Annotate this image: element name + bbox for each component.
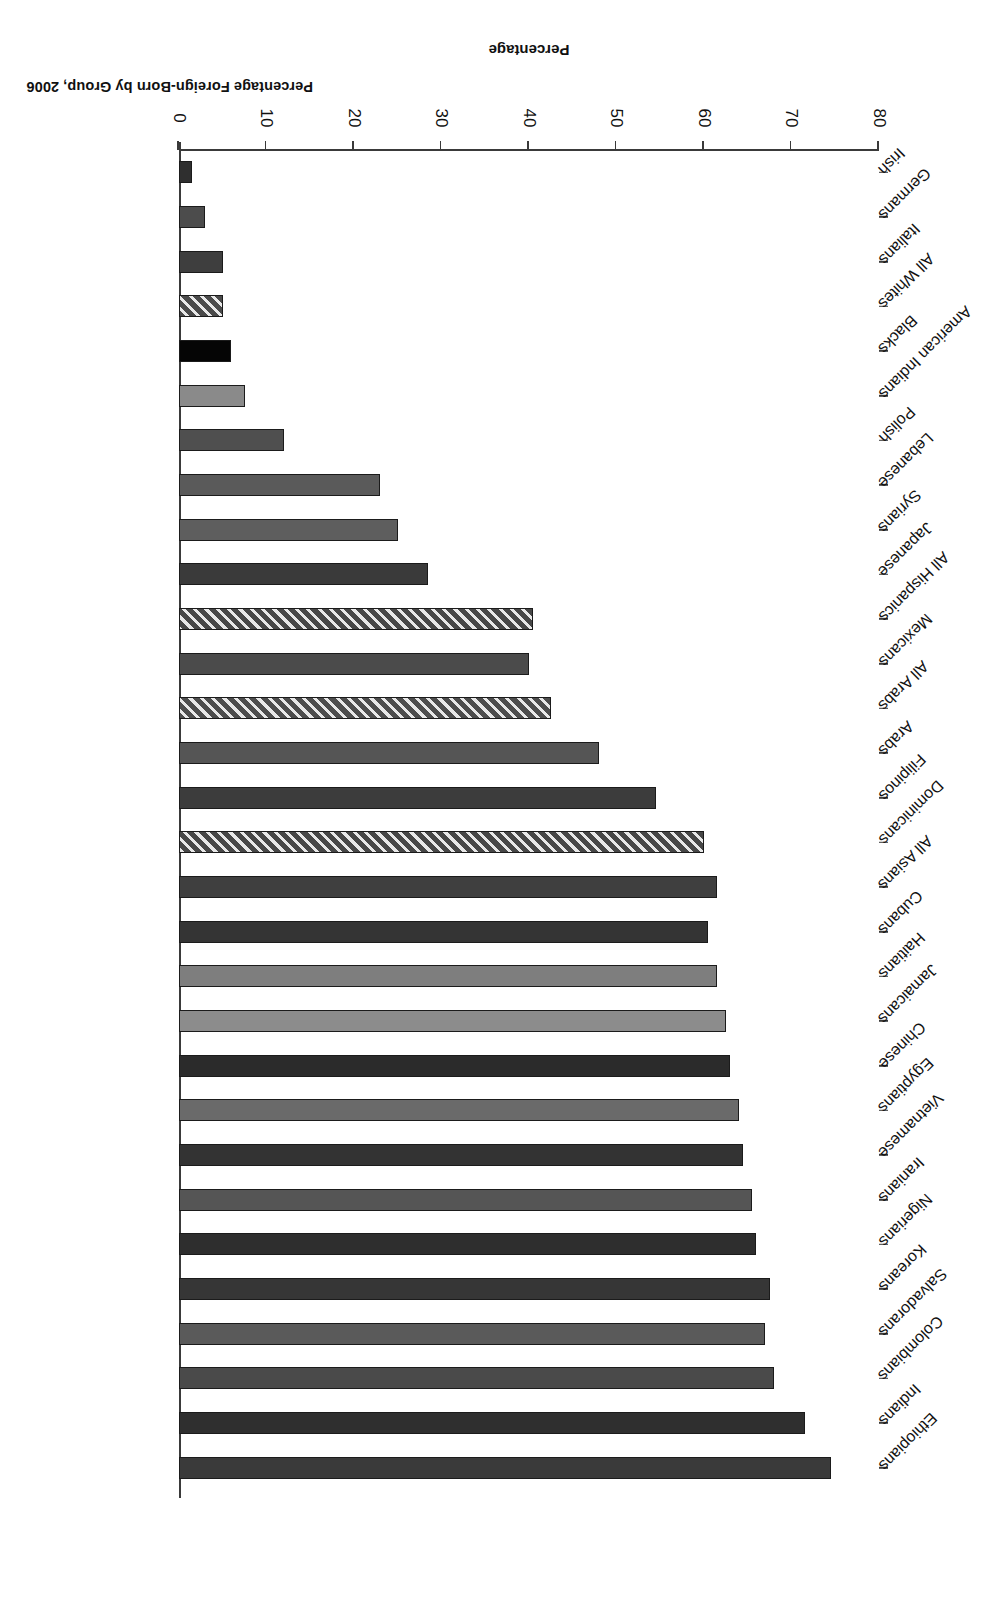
bar bbox=[179, 1144, 743, 1166]
bar bbox=[179, 653, 529, 675]
bar-row: Arabs bbox=[179, 731, 879, 776]
bar-row: Vietnamese bbox=[179, 1133, 879, 1178]
bar-row: Lebanese bbox=[179, 463, 879, 508]
bar-row: Mexicans bbox=[179, 641, 879, 686]
category-label: Arabs bbox=[875, 717, 917, 759]
plot-area: Percentage 01020304050607080 EthiopiansI… bbox=[179, 150, 879, 1490]
category-label: Irish bbox=[875, 145, 909, 179]
bar bbox=[179, 1099, 739, 1121]
value-axis-tick bbox=[527, 141, 529, 150]
bar bbox=[179, 563, 428, 585]
bar-row: Dominicans bbox=[179, 820, 879, 865]
bar-row: Japanese bbox=[179, 552, 879, 597]
bar-row: Filipinos bbox=[179, 775, 879, 820]
bar bbox=[179, 1412, 805, 1434]
bar bbox=[179, 787, 656, 809]
bar-row: Italians bbox=[179, 239, 879, 284]
bar-row: Egyptians bbox=[179, 1088, 879, 1133]
bar bbox=[179, 295, 223, 317]
value-axis-tick bbox=[877, 141, 879, 150]
bar-row: American Indians bbox=[179, 373, 879, 418]
value-axis-tick-label: 60 bbox=[694, 109, 714, 128]
bar-row: Indians bbox=[179, 1401, 879, 1446]
bar bbox=[179, 429, 284, 451]
bar bbox=[179, 1457, 831, 1479]
value-axis-tick-label: 80 bbox=[869, 109, 889, 128]
value-axis-tick bbox=[790, 141, 792, 150]
bar-row: Nigerians bbox=[179, 1222, 879, 1267]
bar-row: Colombians bbox=[179, 1356, 879, 1401]
bar bbox=[179, 206, 205, 228]
bar bbox=[179, 831, 704, 853]
value-axis-tick-label: 40 bbox=[519, 109, 539, 128]
bar-row: All Hispanics bbox=[179, 597, 879, 642]
chart-page: Percentage Foreign-Born by Group, 2006 P… bbox=[0, 0, 996, 1618]
value-axis-tick bbox=[615, 141, 617, 150]
bar bbox=[179, 742, 599, 764]
value-axis-tick bbox=[352, 141, 354, 150]
bar bbox=[179, 1010, 726, 1032]
chart-title: Percentage Foreign-Born by Group, 2006 bbox=[26, 79, 313, 95]
value-axis-tick bbox=[440, 141, 442, 150]
bar-row: Irish bbox=[179, 150, 879, 195]
bar bbox=[179, 340, 232, 362]
bar bbox=[179, 1055, 730, 1077]
bar bbox=[179, 1189, 752, 1211]
bar-row: All Arabs bbox=[179, 686, 879, 731]
bar-row: Polish bbox=[179, 418, 879, 463]
value-axis-tick-label: 0 bbox=[169, 113, 189, 122]
bar bbox=[179, 251, 223, 273]
value-axis-tick-label: 70 bbox=[782, 109, 802, 128]
bar bbox=[179, 519, 398, 541]
value-axis-tick-label: 20 bbox=[344, 109, 364, 128]
bar bbox=[179, 1323, 765, 1345]
value-axis-tick-label: 10 bbox=[257, 109, 277, 128]
value-axis-tick-label: 30 bbox=[432, 109, 452, 128]
bar bbox=[179, 876, 717, 898]
bar-row: Blacks bbox=[179, 329, 879, 374]
bar bbox=[179, 608, 533, 630]
value-axis-tick bbox=[702, 141, 704, 150]
bar-row: Cubans bbox=[179, 909, 879, 954]
bar bbox=[179, 965, 717, 987]
bar-row: Jamaicans bbox=[179, 999, 879, 1044]
bar-row: Ethiopians bbox=[179, 1445, 879, 1490]
bar bbox=[179, 161, 192, 183]
bar-row: Salvadorans bbox=[179, 1311, 879, 1356]
bar-row: Germans bbox=[179, 195, 879, 240]
bar bbox=[179, 697, 551, 719]
bar-row: Koreans bbox=[179, 1267, 879, 1312]
value-axis-tick-label: 50 bbox=[607, 109, 627, 128]
bar bbox=[179, 385, 245, 407]
bar bbox=[179, 1278, 770, 1300]
value-axis-title: Percentage bbox=[489, 42, 570, 59]
value-axis-tick bbox=[177, 141, 179, 150]
bar-row: Iranians bbox=[179, 1177, 879, 1222]
bar bbox=[179, 474, 380, 496]
figure-rotated-180: Percentage Foreign-Born by Group, 2006 P… bbox=[0, 0, 996, 1618]
bar-row: All Asians bbox=[179, 865, 879, 910]
bar bbox=[179, 1367, 774, 1389]
category-label: Cubans bbox=[875, 886, 927, 938]
value-axis-tick bbox=[265, 141, 267, 150]
bar-row: Syrians bbox=[179, 507, 879, 552]
bar-row: Haitians bbox=[179, 954, 879, 999]
bar-row: All Whites bbox=[179, 284, 879, 329]
bar-row: Chinese bbox=[179, 1043, 879, 1088]
bar bbox=[179, 1233, 757, 1255]
bar bbox=[179, 921, 708, 943]
